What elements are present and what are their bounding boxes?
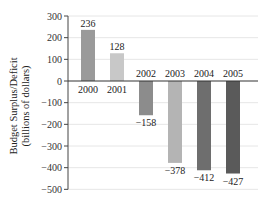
category-label: 2001	[107, 84, 127, 95]
value-label: −378	[165, 165, 186, 176]
y-tick-label: −500	[41, 184, 62, 195]
y-tick-label: 0	[57, 76, 62, 87]
y-tick-label: −200	[41, 119, 62, 130]
y-axis-label: Budget Surplus/Deficit (billions of doll…	[8, 57, 32, 154]
y-tick-label: −100	[41, 97, 62, 108]
y-tick-label: −300	[41, 141, 62, 152]
value-label: 236	[81, 18, 96, 29]
bar-2002	[139, 81, 153, 115]
y-tick-label: 300	[47, 11, 62, 22]
y-axis-title: Budget Surplus/Deficit	[8, 57, 19, 154]
value-label: −158	[136, 117, 157, 128]
category-label: 2004	[194, 68, 214, 79]
bar-2000	[81, 30, 95, 81]
y-tick-label: −400	[41, 162, 62, 173]
y-axis: 3002001000−100−200−300−400−500	[41, 11, 68, 195]
value-label: −427	[223, 176, 244, 187]
y-axis-subtitle: (billions of dollars)	[20, 65, 32, 147]
budget-bar-chart: 3002001000−100−200−300−400−500 236200012…	[0, 0, 260, 199]
bar-2003	[168, 81, 182, 163]
y-tick-label: 100	[47, 54, 62, 65]
category-label: 2002	[136, 68, 156, 79]
bar-2005	[226, 81, 240, 174]
value-label: 128	[110, 41, 125, 52]
category-label: 2003	[165, 68, 185, 79]
category-label: 2000	[78, 84, 98, 95]
category-label: 2005	[223, 68, 243, 79]
bar-2001	[110, 53, 124, 81]
value-label: −412	[194, 172, 215, 183]
y-tick-label: 200	[47, 32, 62, 43]
bar-2004	[197, 81, 211, 170]
